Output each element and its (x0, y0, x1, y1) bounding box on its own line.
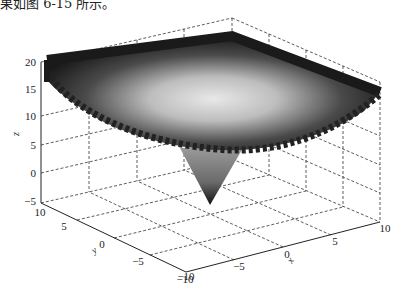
svg-text:10: 10 (380, 222, 392, 234)
surface-plot: 20 15 10 5 0 −5 z 10 5 0 −5 −10 y −10 −5… (0, 0, 404, 297)
svg-text:10: 10 (25, 110, 37, 122)
z-axis-label: z (10, 132, 21, 137)
x-axis-label: x (284, 255, 297, 266)
svg-text:−10: −10 (177, 270, 195, 282)
svg-text:−5: −5 (132, 255, 144, 267)
svg-text:0: 0 (31, 167, 37, 179)
svg-text:0: 0 (99, 238, 105, 250)
svg-text:5: 5 (31, 139, 37, 151)
svg-text:15: 15 (25, 83, 37, 95)
x-axis-ticks: −10 −5 0 5 10 (177, 222, 391, 282)
svg-text:20: 20 (25, 56, 37, 68)
surface (47, 36, 380, 205)
z-axis-ticks: 20 15 10 5 0 −5 (24, 56, 36, 207)
svg-text:−5: −5 (233, 260, 245, 272)
svg-text:5: 5 (61, 220, 67, 232)
y-axis-ticks: 10 5 0 −5 −10 (35, 206, 195, 285)
y-axis-label: y (88, 244, 99, 256)
svg-text:5: 5 (332, 235, 338, 247)
svg-text:10: 10 (35, 206, 47, 218)
